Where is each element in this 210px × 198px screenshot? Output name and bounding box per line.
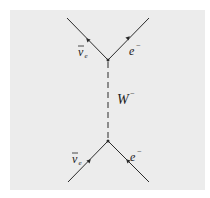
- svg-text:e: e: [85, 52, 88, 60]
- svg-text:−: −: [136, 41, 141, 50]
- svg-text:ν: ν: [78, 45, 84, 59]
- svg-text:W: W: [117, 92, 130, 107]
- diagram-panel: [10, 10, 205, 190]
- svg-text:ν: ν: [72, 152, 78, 166]
- svg-text:−: −: [130, 89, 135, 98]
- svg-text:−: −: [137, 147, 142, 156]
- svg-text:e: e: [129, 44, 135, 58]
- top-vertex: [107, 59, 110, 62]
- svg-text:e: e: [79, 159, 82, 167]
- feynman-diagram: ν e e − W − ν e e −: [0, 0, 210, 198]
- svg-text:e: e: [130, 150, 136, 164]
